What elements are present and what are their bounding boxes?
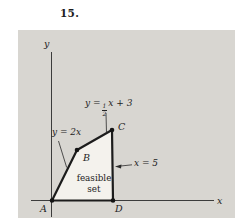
y-axis-label: y bbox=[44, 38, 49, 49]
equation-label-line-cd: x = 5 bbox=[134, 158, 158, 168]
arrowhead-left-icon bbox=[115, 164, 122, 168]
region-label: feasible set bbox=[75, 173, 113, 195]
vertex-dot-b bbox=[75, 148, 80, 153]
equation-label-line-ab: y = 2x bbox=[52, 127, 81, 137]
fraction-denominator: 2 bbox=[103, 111, 107, 118]
equation-bc-prefix: y = bbox=[85, 98, 101, 108]
region-label-line1: feasible bbox=[75, 173, 113, 184]
vertex-label-d: D bbox=[115, 203, 123, 214]
pointer-line-to-edge-ab bbox=[59, 141, 67, 168]
equation-label-line-bc: y =12x + 3 bbox=[85, 98, 132, 117]
vertex-dot-a bbox=[50, 198, 55, 203]
figure-panel: y x y = 2x y =12x + 3 x = 5 feasible set… bbox=[18, 30, 235, 218]
x-axis-label: x bbox=[217, 195, 222, 206]
equation-bc-fraction: 12 bbox=[102, 103, 108, 117]
equation-bc-suffix: x + 3 bbox=[108, 98, 132, 108]
feasible-set-graph bbox=[18, 30, 235, 218]
vertex-label-b: B bbox=[83, 152, 90, 163]
region-label-line2: set bbox=[75, 184, 113, 195]
vertex-label-a: A bbox=[40, 203, 47, 214]
vertex-dot-c bbox=[110, 128, 115, 133]
textbook-page: { "problem_number": "15.", "figure": { "… bbox=[0, 0, 245, 222]
problem-number: 15. bbox=[60, 7, 79, 19]
vertex-label-c: C bbox=[118, 121, 125, 132]
